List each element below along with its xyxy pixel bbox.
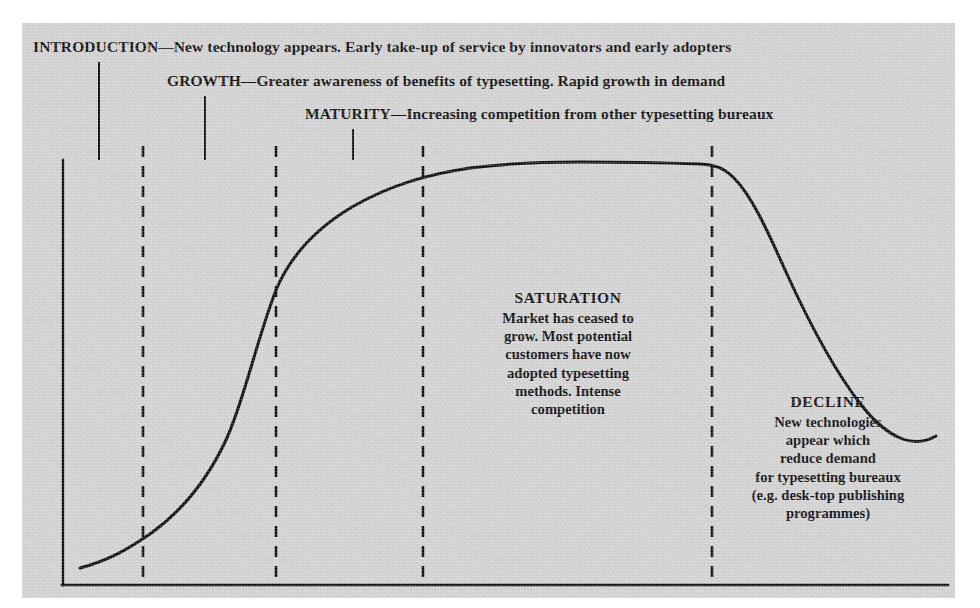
figure-canvas: INTRODUCTION—New technology appears. Ear… [0,0,980,608]
annotation-decline-line: (e.g. desk-top publishing [712,486,944,504]
callout-maturity-phase: MATURITY [305,105,391,122]
annotation-decline-line: programmes) [712,504,944,522]
annotation-saturation-line: methods. Intense [452,382,684,400]
annotation-decline-body: New technologies appear which reduce dem… [712,413,944,523]
callout-introduction-dash: — [158,38,174,55]
annotation-saturation-line: competition [452,400,684,418]
annotation-saturation-line: Market has ceased to [452,309,684,327]
annotation-saturation: SATURATION Market has ceased to grow. Mo… [452,288,684,419]
annotation-saturation-body: Market has ceased to grow. Most potentia… [452,309,684,419]
callout-introduction-phase: INTRODUCTION [33,38,158,55]
annotation-saturation-line: grow. Most potential [452,327,684,345]
annotation-saturation-line: adopted typesetting [452,364,684,382]
annotation-decline-line: appear which [712,431,944,449]
callout-growth: GROWTH—Greater awareness of benefits of … [167,72,725,90]
annotation-decline: DECLINE New technologies appear which re… [712,392,944,523]
annotation-decline-line: New technologies [712,413,944,431]
callout-introduction-description: New technology appears. Early take-up of… [174,38,731,55]
callout-growth-phase: GROWTH [167,72,241,89]
annotation-saturation-heading: SATURATION [452,288,684,308]
annotation-decline-heading: DECLINE [712,392,944,412]
callout-maturity: MATURITY—Increasing competition from oth… [305,105,773,123]
callout-growth-dash: — [241,72,257,89]
annotation-saturation-line: customers have now [452,345,684,363]
annotation-decline-line: for typesetting bureaux [712,468,944,486]
annotation-decline-line: reduce demand [712,449,944,467]
callout-maturity-description: Increasing competition from other typese… [406,105,773,122]
callout-growth-description: Greater awareness of benefits of typeset… [256,72,725,89]
callout-introduction: INTRODUCTION—New technology appears. Ear… [33,38,731,56]
callout-maturity-dash: — [391,105,407,122]
